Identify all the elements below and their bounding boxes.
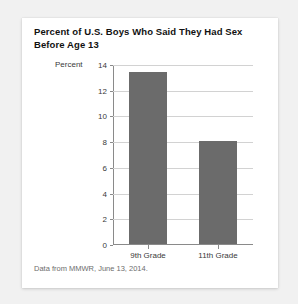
x-tick-mark [148, 245, 149, 249]
y-tick-mark [110, 116, 113, 117]
x-tick-mark [218, 245, 219, 249]
y-tick-label: 4 [103, 189, 107, 198]
x-tick-label: 9th Grade [130, 251, 166, 260]
y-tick-mark [110, 168, 113, 169]
x-tick-label: 11th Grade [198, 251, 237, 260]
bar [129, 72, 167, 244]
y-tick-label: 10 [98, 112, 107, 121]
page-background: Percent of U.S. Boys Who Said They Had S… [0, 0, 298, 304]
y-tick-mark [110, 91, 113, 92]
y-tick-mark [110, 245, 113, 246]
bar [199, 141, 237, 244]
y-tick-mark [110, 219, 113, 220]
y-tick-mark [110, 142, 113, 143]
y-tick-label: 12 [98, 86, 107, 95]
x-axis-line [113, 244, 253, 245]
y-axis-title: Percent [55, 60, 83, 69]
y-tick-mark [110, 65, 113, 66]
plot-area: 02468101214 9th Grade11th Grade [113, 65, 253, 245]
y-tick-label: 6 [103, 163, 107, 172]
y-tick-label: 8 [103, 138, 107, 147]
y-tick-label: 2 [103, 215, 107, 224]
y-axis-line [113, 65, 114, 245]
y-tick-label: 14 [98, 61, 107, 70]
chart-title: Percent of U.S. Boys Who Said They Had S… [34, 25, 264, 51]
y-tick-mark [110, 194, 113, 195]
gridline [113, 65, 253, 66]
y-tick-label: 0 [103, 241, 107, 250]
chart-card: Percent of U.S. Boys Who Said They Had S… [22, 18, 278, 288]
source-note: Data from MMWR, June 13, 2014. [34, 264, 148, 273]
